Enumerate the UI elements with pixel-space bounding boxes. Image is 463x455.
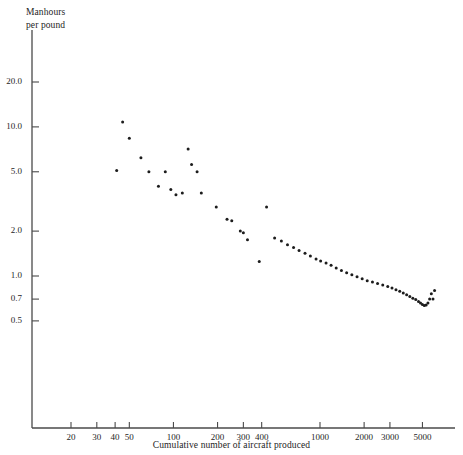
data-point xyxy=(196,170,199,173)
data-point xyxy=(128,137,131,140)
data-point xyxy=(345,271,348,274)
y-tick-label: 20.0 xyxy=(0,76,22,86)
data-point xyxy=(286,243,289,246)
data-point xyxy=(187,148,190,151)
y-tick-label: 0.7 xyxy=(0,293,22,303)
data-point xyxy=(428,298,431,301)
data-point xyxy=(391,287,394,290)
data-point xyxy=(147,170,150,173)
data-point xyxy=(298,249,301,252)
data-point xyxy=(394,288,397,291)
data-point xyxy=(230,219,233,222)
data-point xyxy=(215,206,218,209)
data-point xyxy=(121,120,124,123)
data-point xyxy=(181,192,184,195)
y-axis-label-line-2: per pound xyxy=(26,19,65,32)
data-point xyxy=(431,298,434,301)
data-point xyxy=(376,282,379,285)
x-tick-label: 400 xyxy=(240,432,284,442)
data-point xyxy=(190,163,193,166)
data-point xyxy=(386,285,389,288)
data-point xyxy=(265,206,268,209)
y-axis-label-line-1: Manhours xyxy=(26,6,65,19)
data-point xyxy=(200,192,203,195)
y-tick-label: 10.0 xyxy=(0,121,22,131)
data-point xyxy=(157,185,160,188)
y-axis-label: Manhours per pound xyxy=(26,6,65,31)
x-tick-label: 5000 xyxy=(400,432,444,442)
x-tick-label: 1000 xyxy=(298,432,342,442)
x-tick-label: 50 xyxy=(107,432,151,442)
data-point xyxy=(325,262,328,265)
data-point xyxy=(330,264,333,267)
data-point xyxy=(273,236,276,239)
data-point xyxy=(405,293,408,296)
tick-marks xyxy=(32,82,422,428)
y-tick-label: 0.5 xyxy=(0,315,22,325)
data-point xyxy=(398,290,401,293)
data-point xyxy=(304,252,307,255)
data-point xyxy=(426,301,429,304)
axis-lines xyxy=(32,30,455,428)
y-tick-label: 5.0 xyxy=(0,166,22,176)
data-point xyxy=(366,279,369,282)
data-point xyxy=(319,260,322,263)
data-point xyxy=(361,277,364,280)
data-point xyxy=(164,170,167,173)
data-point xyxy=(174,193,177,196)
data-point xyxy=(258,260,261,263)
data-point xyxy=(309,255,312,258)
data-point xyxy=(280,239,283,242)
data-point xyxy=(433,289,436,292)
data-point xyxy=(315,258,318,261)
data-point xyxy=(292,246,295,249)
data-point xyxy=(239,230,242,233)
data-point xyxy=(411,297,414,300)
data-point xyxy=(139,156,142,159)
y-tick-label: 2.0 xyxy=(0,225,22,235)
y-tick-label: 1.0 xyxy=(0,270,22,280)
learning-curve-chart xyxy=(0,0,463,455)
data-point xyxy=(242,231,245,234)
data-point xyxy=(430,292,433,295)
x-tick-label: 100 xyxy=(151,432,195,442)
data-point xyxy=(402,291,405,294)
data-point xyxy=(169,188,172,191)
data-point xyxy=(381,284,384,287)
data-point xyxy=(340,269,343,272)
data-point xyxy=(335,267,338,270)
data-point xyxy=(414,298,417,301)
data-point xyxy=(371,281,374,284)
data-point xyxy=(115,169,118,172)
data-point xyxy=(246,238,249,241)
data-point xyxy=(356,275,359,278)
data-point xyxy=(226,218,229,221)
data-point-group xyxy=(115,120,436,307)
data-point xyxy=(350,273,353,276)
data-point xyxy=(408,295,411,298)
